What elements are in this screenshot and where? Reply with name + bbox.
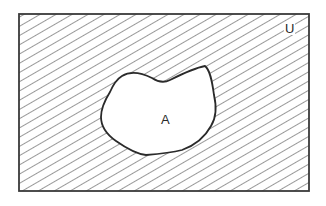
set-a-label: A: [160, 113, 171, 126]
venn-diagram: U A: [0, 0, 326, 206]
universal-set-label: U: [284, 22, 295, 35]
venn-diagram-canvas: [0, 0, 326, 206]
